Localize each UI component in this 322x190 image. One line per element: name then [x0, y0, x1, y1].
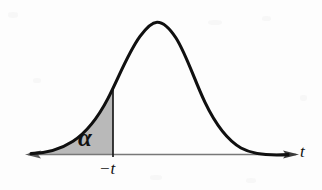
alpha-label: α [78, 125, 92, 150]
x-axis-label: t [300, 143, 305, 160]
t-distribution-figure: α −t t [0, 0, 322, 190]
shaded-alpha-region [30, 90, 113, 155]
plot-canvas [0, 0, 322, 190]
critical-value-label: −t [99, 160, 115, 177]
t-distribution-curve [31, 22, 288, 155]
